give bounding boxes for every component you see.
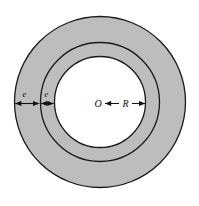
figure-container: e e O R — [0, 0, 199, 206]
label-radius: R — [121, 98, 128, 109]
annulus-diagram: e e O R — [0, 0, 199, 206]
label-center-point: O — [94, 98, 101, 109]
label-thickness-inner: e — [45, 89, 49, 99]
label-thickness-outer: e — [23, 89, 27, 99]
